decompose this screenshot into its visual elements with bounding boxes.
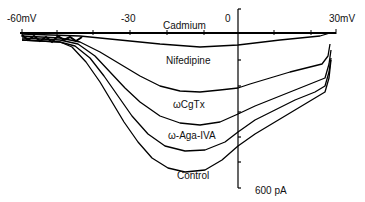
curve-cgtx bbox=[22, 38, 331, 125]
label-control: Control bbox=[177, 171, 209, 181]
x-tick-label-pos30: 30mV bbox=[329, 14, 355, 24]
label-cgtx: ωCgTx bbox=[173, 100, 205, 110]
x-tick-label-neg60: -60mV bbox=[7, 14, 36, 24]
y-axis bbox=[238, 9, 241, 188]
label-nifedipine: Nifedipine bbox=[166, 56, 210, 66]
scale-bar-label: 600 pA bbox=[255, 186, 287, 196]
x-tick-label-neg30: -30 bbox=[121, 14, 135, 24]
label-aga-iva: ω-Aga-IVA bbox=[168, 131, 216, 141]
x-tick-label-zero: 0 bbox=[225, 14, 231, 24]
label-cadmium: Cadmium bbox=[163, 21, 206, 31]
